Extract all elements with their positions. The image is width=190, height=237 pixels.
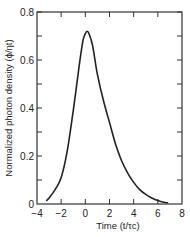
axis-ticks [37,12,182,204]
y-axis-label: Normalized photon density (ϕ/ηt) [3,39,14,176]
x-tick-label: 2 [107,208,113,219]
x-tick-label: 8 [179,208,185,219]
x-tick-label: −4 [31,208,43,219]
y-tick-label: 0.2 [20,151,34,162]
chart: −4−202468 00.20.40.60.8 Time (t/τc) Norm… [0,0,190,237]
x-tick-label: −2 [55,208,67,219]
x-tick-label: 6 [155,208,161,219]
y-tick-label: 0.8 [20,7,34,18]
x-axis-label: Time (t/τc) [96,220,140,231]
photon-density-curve [47,31,168,203]
x-tick-labels: −4−202468 [31,208,185,219]
y-tick-label: 0 [28,199,34,210]
x-tick-label: 0 [83,208,89,219]
plot-frame [37,12,182,204]
y-tick-label: 0.6 [20,55,34,66]
y-tick-label: 0.4 [20,103,34,114]
y-tick-labels: 00.20.40.60.8 [20,7,34,210]
x-tick-label: 4 [131,208,137,219]
